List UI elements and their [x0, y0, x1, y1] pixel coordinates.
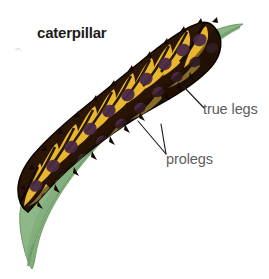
page-title: caterpillar	[37, 25, 107, 40]
annotation-label-true-legs: true legs	[203, 102, 258, 117]
caterpillar-group	[18, 17, 221, 212]
true-legs-leader	[183, 86, 204, 108]
caterpillar-diagram: caterpillar true legs prolegs	[0, 0, 269, 279]
scan-speck	[14, 48, 22, 52]
illustration-canvas	[0, 0, 269, 279]
leaf-notch	[140, 121, 172, 150]
annotation-label-prolegs: prolegs	[166, 152, 213, 167]
